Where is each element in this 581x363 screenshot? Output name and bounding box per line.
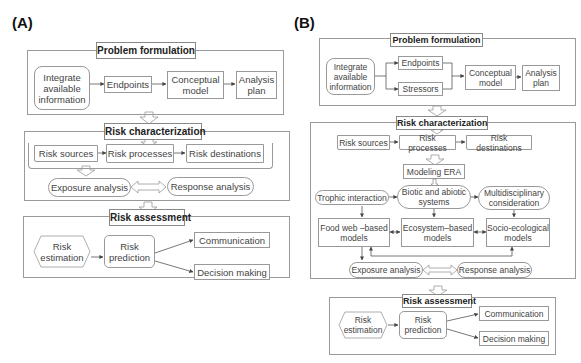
panel-a-analysis-plan-box: Analysis plan	[236, 71, 277, 99]
panel-b-socio-ecological-models-box: Socio-ecological models	[486, 218, 550, 247]
panel-b-conceptual-model-box: Conceptual model	[465, 65, 516, 90]
panel-a-risk-assessment-title: Risk assessment	[109, 209, 185, 226]
panel-b-stressors-box: Stressors	[398, 82, 443, 96]
panel-a-integrate-info-box: Integrate available information	[34, 66, 90, 110]
panel-b-ecosystem-models-box: Ecosystem–based models	[401, 218, 474, 247]
panel-a-risk-processes-box: Risk processes	[106, 144, 174, 163]
panel-b-exposure-analysis-box: Exposure analysis	[349, 262, 423, 278]
panel-b-problem-formulation-title: Problem formulation	[390, 33, 483, 47]
panel-b-food-web-models-box: Food web –based models	[318, 218, 390, 247]
panel-b-decision-making-box: Decision making	[479, 331, 549, 346]
panel-b-multidisciplinary-box: Multidisciplinary consideration	[478, 186, 550, 210]
panel-a-risk-destinations-box: Risk destinations	[186, 144, 264, 163]
panel-b-biotic-abiotic-box: Biotic and abiotic systems	[397, 185, 471, 209]
panel-a-conceptual-model-box: Conceptual model	[167, 71, 224, 99]
panel-b-endpoints-box: Endpoints	[398, 56, 443, 70]
panel-b-risk-processes-box: Risk processes	[399, 135, 456, 150]
panel-b-analysis-plan-box: Analysis plan	[522, 65, 560, 91]
panel-b-risk-estimation-label: Risk estimation	[338, 315, 388, 335]
panel-b-risk-characterization-title: Risk characterization	[396, 116, 488, 130]
panel-b-risk-prediction-box: Risk prediction	[399, 311, 447, 339]
panel-b-trophic-interaction-box: Trophic interaction	[315, 190, 389, 205]
panel-b-communication-box: Communication	[479, 306, 549, 321]
panel-a-endpoints-box: Endpoints	[104, 76, 152, 93]
panel-a-risk-characterization-title: Risk characterization	[104, 123, 202, 140]
panel-a-label: (A)	[12, 14, 33, 31]
panel-b-risk-estimation-box: Risk estimation	[338, 311, 388, 339]
panel-a-risk-estimation-label: Risk estimation	[33, 241, 91, 263]
panel-a-communication-box: Communication	[194, 232, 270, 248]
panel-a-exposure-analysis-box: Exposure analysis	[48, 178, 131, 197]
panel-b-label: (B)	[294, 14, 315, 31]
panel-a-risk-sources-box: Risk sources	[34, 145, 98, 162]
panel-b-risk-destinations-box: Risk destinations	[466, 135, 532, 150]
panel-a-risk-estimation-box: Risk estimation	[33, 235, 91, 268]
panel-a-decision-making-box: Decision making	[194, 264, 270, 280]
panel-b-risk-sources-box: Risk sources	[337, 135, 390, 150]
panel-a-risk-prediction-box: Risk prediction	[104, 235, 155, 268]
panel-b-response-analysis-box: Response analysis	[457, 262, 532, 278]
panel-a-problem-formulation-title: Problem formulation	[96, 42, 196, 59]
panel-b-modeling-era-box: Modeling ERA	[403, 164, 465, 179]
panel-b-risk-assessment-title: Risk assessment	[402, 294, 472, 308]
panel-a-response-analysis-box: Response analysis	[167, 177, 254, 196]
panel-b-integrate-info-box: Integrate available information	[326, 58, 375, 95]
